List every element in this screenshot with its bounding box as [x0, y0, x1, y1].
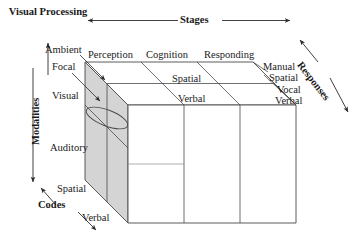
ambient-label: Ambient: [45, 45, 82, 56]
top-face-spatial-label: Spatial: [172, 74, 201, 85]
code-verbal-label: Verbal: [82, 213, 109, 224]
response-spatial-label: Spatial: [269, 73, 298, 84]
auditory-modality-label: Auditory: [50, 143, 88, 154]
stage-perception-label: Perception: [88, 50, 133, 61]
visual-modality-label: Visual: [52, 91, 79, 102]
focal-label: Focal: [52, 62, 75, 73]
response-vocal-label: Vocal: [277, 85, 301, 96]
top-face-verbal-label: Verbal: [178, 94, 205, 105]
codes-axis-label: Codes: [38, 200, 65, 211]
stage-responding-label: Responding: [204, 50, 254, 61]
code-spatial-label: Spatial: [57, 184, 86, 195]
diagram-canvas: Visual Processing Stages Modalities Resp…: [0, 0, 359, 236]
response-manual-label: Manual: [263, 62, 295, 73]
visual-processing-label: Visual Processing: [6, 5, 90, 18]
stage-cognition-label: Cognition: [146, 50, 188, 61]
response-verbal-label: Verbal: [275, 96, 302, 107]
modalities-axis-label: Modalities: [31, 98, 42, 145]
stages-axis-label: Stages: [180, 15, 209, 26]
